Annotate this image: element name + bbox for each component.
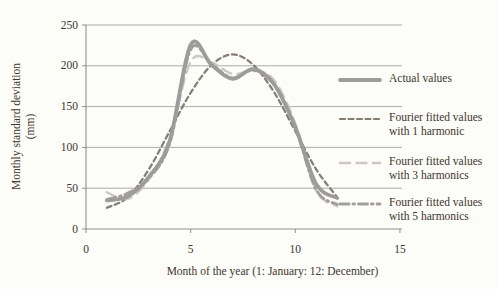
legend-swatch-harmonic5-icon [338, 200, 382, 208]
x-tick-label-0: 0 [74, 243, 98, 256]
x-tick-label-5: 5 [179, 243, 203, 256]
legend-swatch-harmonic1-icon [338, 115, 382, 123]
figure-page: 050100150200250 051015 Monthly standard … [0, 0, 499, 289]
legend-item-actual: Actual values [338, 72, 452, 86]
legend-label-line: with 1 harmonic [389, 125, 482, 139]
y-tick-label-250: 250 [52, 19, 78, 32]
series-line-actual [107, 41, 337, 200]
legend-label-line: Fourier fitted values [389, 111, 482, 125]
legend-swatch-harmonic3-icon [338, 159, 382, 167]
legend-item-harmonic5: Fourier fitted valueswith 5 harmonics [338, 196, 482, 224]
legend-label-harmonic5: Fourier fitted valueswith 5 harmonics [389, 196, 482, 224]
legend-label-line: Fourier fitted values [389, 155, 482, 169]
y-axis-title-line1: Monthly standard deviation [10, 52, 24, 202]
legend-label-line: with 5 harmonics [389, 210, 482, 224]
y-axis-title: Monthly standard deviation (mm) [10, 52, 37, 202]
y-tick-label-200: 200 [52, 59, 78, 72]
legend-label-line: Fourier fitted values [389, 196, 482, 210]
y-tick-label-100: 100 [52, 141, 78, 154]
chart-legend: Actual valuesFourier fitted valueswith 1… [338, 0, 498, 289]
y-tick-label-0: 0 [52, 223, 78, 236]
legend-label-actual: Actual values [389, 72, 452, 86]
legend-label-line: Actual values [389, 72, 452, 86]
x-tick-label-10: 10 [283, 243, 307, 256]
legend-label-harmonic1: Fourier fitted valueswith 1 harmonic [389, 111, 482, 139]
legend-label-harmonic3: Fourier fitted valueswith 3 harmonics [389, 155, 482, 183]
legend-item-harmonic3: Fourier fitted valueswith 3 harmonics [338, 155, 482, 183]
y-tick-label-150: 150 [52, 100, 78, 113]
y-axis-title-line2: (mm) [23, 52, 37, 202]
legend-swatch-actual-icon [338, 76, 382, 84]
legend-item-harmonic1: Fourier fitted valueswith 1 harmonic [338, 111, 482, 139]
legend-label-line: with 3 harmonics [389, 169, 482, 183]
y-tick-label-50: 50 [52, 182, 78, 195]
